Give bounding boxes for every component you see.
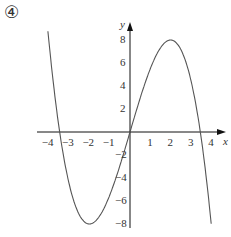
y-tick-label: −6 [115,195,127,206]
x-tick-label: 3 [188,137,194,148]
y-tick-label: −8 [115,218,127,229]
y-tick-label: 4 [120,80,126,91]
y-tick-label: −4 [115,172,127,183]
y-tick-label: 2 [120,103,126,114]
x-tick-label: 4 [208,137,214,148]
x-tick-label: −2 [82,137,94,148]
x-tick-label: 2 [168,137,174,148]
x-tick-label: 1 [147,137,153,148]
x-tick-label: −4 [42,137,54,148]
x-axis-label: x [223,136,228,147]
x-tick-label: −3 [62,137,74,148]
y-tick-label: 6 [120,57,126,68]
problem-label: ④ [4,4,19,21]
y-tick-label: −2 [115,149,127,160]
x-tick-label: −1 [103,137,115,148]
y-axis-label: y [120,19,125,30]
y-tick-label: 8 [120,34,126,45]
